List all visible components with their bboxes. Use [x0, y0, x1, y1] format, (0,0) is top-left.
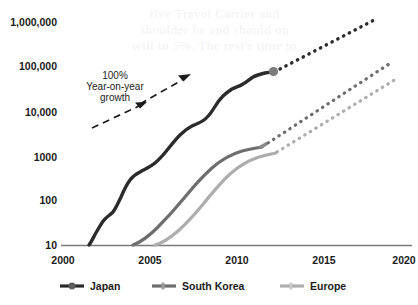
series-south-korea-projection [268, 64, 389, 143]
series-japan-endpoint-marker [269, 67, 278, 76]
y-tick-10: 10 [45, 239, 57, 251]
legend-label-europe: Europe [310, 280, 346, 292]
growth-line-chart: 1,000,000 100,000 10,000 1000 100 10 200… [0, 0, 418, 305]
x-tick-2020: 2020 [392, 254, 416, 266]
legend-item-japan[interactable]: Japan [60, 280, 120, 292]
growth-arrow-upper [140, 74, 191, 104]
series-europe-projection [277, 79, 396, 152]
legend-marker-japan [69, 283, 76, 290]
series-europe [155, 79, 396, 245]
growth-arrow-lower [92, 102, 147, 128]
series-south-korea-solid [133, 147, 262, 245]
y-tick-10000: 10,000 [25, 106, 57, 118]
legend-label-japan: Japan [90, 280, 120, 292]
series-south-korea-marker [261, 144, 266, 147]
annotation-line-3: growth [100, 92, 130, 103]
legend-item-europe[interactable]: Europe [280, 280, 346, 292]
y-axis-tick-labels: 1,000,000 100,000 10,000 1000 100 10 [10, 16, 57, 251]
x-tick-2015: 2015 [312, 254, 336, 266]
annotation-line-2: Year-on-year [86, 81, 144, 92]
x-axis-tick-labels: 2000 2005 2010 2015 2020 [51, 254, 416, 266]
y-tick-100000: 100,000 [19, 60, 57, 72]
x-tick-2000: 2000 [51, 254, 75, 266]
y-tick-1000000: 1,000,000 [10, 16, 57, 28]
y-tick-1000: 1000 [34, 151, 58, 163]
series-south-korea [133, 64, 389, 245]
x-tick-2010: 2010 [225, 254, 249, 266]
legend-item-south-korea[interactable]: South Korea [152, 280, 245, 292]
y-tick-100: 100 [39, 194, 57, 206]
chart-container: tive Travel Carrier and shoulder be and … [0, 0, 418, 305]
legend-label-south-korea: South Korea [182, 280, 245, 292]
annotation-line-1: 100% [102, 70, 128, 81]
chart-legend: Japan South Korea Europe [60, 280, 346, 292]
series-japan [89, 18, 378, 245]
growth-annotation: 100% Year-on-year growth [86, 70, 191, 128]
series-japan-projection [280, 18, 378, 69]
x-tick-2005: 2005 [138, 254, 162, 266]
